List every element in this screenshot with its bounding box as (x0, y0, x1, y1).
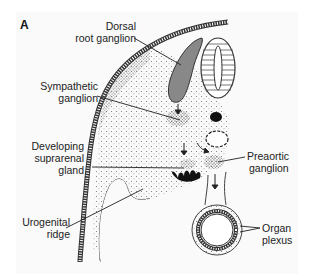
preaortic-ganglion-cluster (204, 155, 224, 169)
notochord (210, 112, 222, 122)
label-organ-plexus: Organ plexus (262, 222, 292, 246)
label-preaortic-ganglion: Preaortic ganglion (247, 150, 289, 174)
label-developing-suprarenal-gland: Developing suprarenal gland (22, 140, 84, 176)
label-urogenital-ridge: Urogenital ridge (14, 216, 70, 240)
aorta (206, 131, 228, 147)
label-dorsal-root-ganglion: Dorsal root ganglion (76, 20, 136, 44)
label-sympathetic-ganglion: Sympathetic ganglion (30, 80, 98, 104)
